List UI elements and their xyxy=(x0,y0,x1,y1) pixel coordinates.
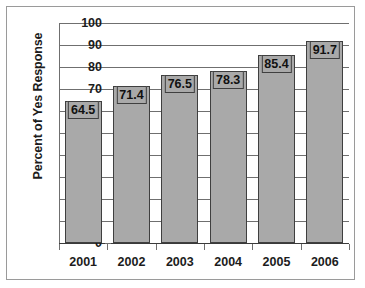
bar-value-label: 71.4 xyxy=(116,86,146,104)
y-axis-tick: 10 xyxy=(105,221,111,222)
x-axis-label: 2004 xyxy=(204,255,252,269)
y-axis-tick-label: 100 xyxy=(81,16,102,30)
x-axis-label: 2002 xyxy=(107,255,155,269)
bar: 76.5 xyxy=(161,75,198,243)
y-axis-title: Percent of Yes Response xyxy=(31,21,45,191)
y-axis-tick: 60 xyxy=(105,111,111,112)
y-axis-tick: 100 xyxy=(105,23,111,24)
x-axis-tick xyxy=(204,244,205,250)
bar-value-label: 78.3 xyxy=(213,71,243,89)
bar-value-label: 76.5 xyxy=(165,75,195,93)
y-axis-tick: 40 xyxy=(105,155,111,156)
x-axis-label: 2001 xyxy=(59,255,107,269)
x-axis-tick xyxy=(349,244,350,250)
bar: 91.7 xyxy=(306,41,343,243)
bar-value-label: 85.4 xyxy=(261,55,291,73)
plot-area: 0102030405060708090100 64.571.476.578.38… xyxy=(59,23,349,243)
y-axis-tick: 20 xyxy=(105,199,111,200)
y-axis-tick: 80 xyxy=(105,67,111,68)
y-axis-tick: 90 xyxy=(105,45,111,46)
x-axis-label: 2005 xyxy=(252,255,300,269)
y-axis-tick: 50 xyxy=(105,133,111,134)
bar-value-label: 91.7 xyxy=(310,41,340,59)
x-axis-tick xyxy=(107,244,108,250)
y-axis-tick-label: 90 xyxy=(88,38,102,52)
bar: 78.3 xyxy=(210,71,247,243)
bar: 85.4 xyxy=(258,55,295,243)
gridline xyxy=(59,23,349,24)
bar: 64.5 xyxy=(65,101,102,243)
bar: 71.4 xyxy=(113,86,150,243)
y-axis-tick-label: 70 xyxy=(88,82,102,96)
y-axis-tick: 30 xyxy=(105,177,111,178)
y-axis-tick: 70 xyxy=(105,89,111,90)
chart-figure: Percent of Yes Response 0102030405060708… xyxy=(6,6,355,280)
x-axis-tick xyxy=(252,244,253,250)
y-axis-tick-label: 80 xyxy=(88,60,102,74)
x-axis-label: 2006 xyxy=(301,255,349,269)
x-axis-tick xyxy=(301,244,302,250)
bar-value-label: 64.5 xyxy=(68,101,98,119)
x-axis-tick xyxy=(156,244,157,250)
x-axis-tick xyxy=(59,244,60,250)
x-axis-label: 2003 xyxy=(156,255,204,269)
